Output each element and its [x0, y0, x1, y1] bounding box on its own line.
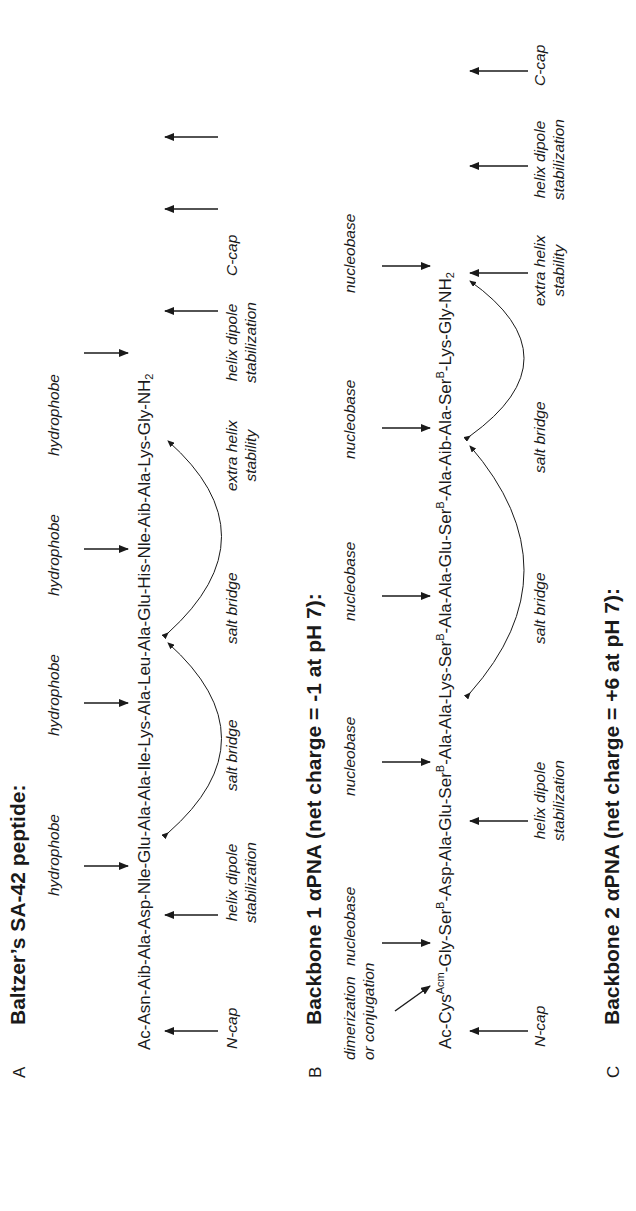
salt-bridge-curve-icon [168, 441, 222, 633]
salt-bridge-curve-icon [168, 643, 222, 833]
arrows-overlay [0, 0, 636, 1211]
salt-bridge-curve-icon [470, 446, 524, 693]
figure-canvas: A Baltzer’s SA-42 peptide: hydrophobe hy… [0, 0, 636, 1211]
salt-bridge-curve-icon [470, 281, 524, 436]
arrow-diagonal-icon [395, 986, 430, 1011]
